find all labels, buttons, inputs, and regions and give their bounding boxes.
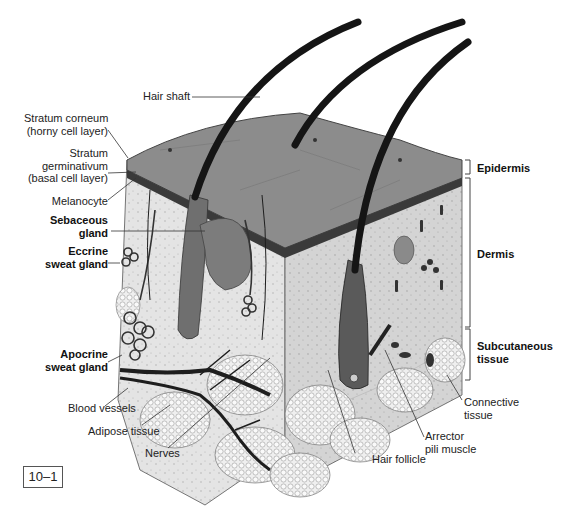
label-adipose-tissue: Adipose tissue (88, 425, 160, 438)
label-line: Arrector (425, 430, 476, 443)
label-line: (basal cell layer) (24, 172, 108, 185)
label-stratum-corneum: Stratum corneum (horny cell layer) (24, 112, 108, 137)
label-line: germinativum (24, 160, 108, 173)
label-nerves: Nerves (145, 447, 180, 460)
label-melanocyte: Melanocyte (24, 195, 108, 208)
label-line: Sebaceous (24, 214, 108, 227)
label-blood-vessels: Blood vessels (68, 402, 136, 415)
label-line: Subcutaneous (477, 340, 553, 353)
layer-subcutaneous: Subcutaneous tissue (477, 340, 553, 365)
label-hair-shaft: Hair shaft (143, 90, 190, 103)
label-line: Stratum (24, 147, 108, 160)
skin-diagram: Hair shaft Stratum corneum (horny cell l… (0, 0, 575, 517)
label-line: tissue (464, 409, 519, 422)
label-line: tissue (477, 353, 553, 366)
label-apocrine-sweat-gland: Apocrine sweat gland (24, 348, 108, 373)
figure-number: 10–1 (23, 466, 63, 488)
label-line: pili muscle (425, 443, 476, 456)
label-line: (horny cell layer) (24, 125, 108, 138)
label-line: sweat gland (24, 361, 108, 374)
layer-brackets (465, 160, 470, 380)
label-sebaceous-gland: Sebaceous gland (24, 214, 108, 239)
label-line: sweat gland (24, 258, 108, 271)
layer-epidermis: Epidermis (477, 162, 530, 175)
label-line: Stratum corneum (24, 112, 108, 125)
label-connective-tissue: Connective tissue (464, 396, 519, 421)
label-line: gland (24, 227, 108, 240)
label-stratum-germinativum: Stratum germinativum (basal cell layer) (24, 147, 108, 185)
label-line: Apocrine (24, 348, 108, 361)
label-hair-follicle: Hair follicle (372, 453, 426, 466)
label-line: Connective (464, 396, 519, 409)
label-line: Eccrine (24, 245, 108, 258)
label-arrector-pili-muscle: Arrector pili muscle (425, 430, 476, 455)
label-eccrine-sweat-gland: Eccrine sweat gland (24, 245, 108, 270)
layer-dermis: Dermis (477, 248, 514, 261)
